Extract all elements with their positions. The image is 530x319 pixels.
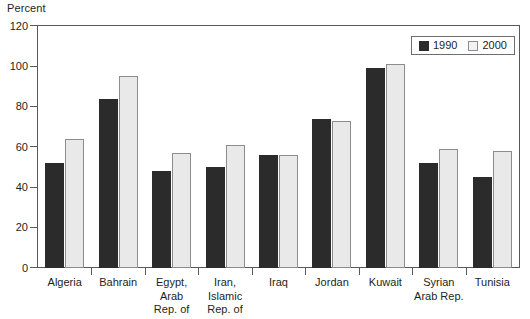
category-separator	[305, 268, 306, 275]
bar-1990	[152, 171, 171, 268]
y-axis-tick	[30, 146, 38, 147]
y-axis-tick-label: 40	[0, 182, 28, 193]
bar-2000	[439, 149, 458, 268]
bar-group	[198, 26, 251, 268]
bar-chart: Percent 020406080100120 AlgeriaBahrainEg…	[0, 0, 530, 319]
legend-label-2000: 2000	[482, 40, 506, 51]
category-separator	[412, 268, 413, 275]
bar-group	[145, 26, 198, 268]
bar-1990	[45, 163, 64, 268]
bar-2000	[172, 153, 191, 268]
bar-group	[359, 26, 412, 268]
plot-area	[38, 26, 519, 268]
category-separator	[145, 268, 146, 275]
legend-entry-1990: 1990	[419, 40, 457, 51]
y-axis-tick	[30, 267, 38, 268]
y-axis-tick-label: 20	[0, 222, 28, 233]
y-axis-tick-label: 120	[0, 21, 28, 32]
category-separator	[359, 268, 360, 275]
y-axis-tick	[30, 227, 38, 228]
bar-1990	[206, 167, 225, 268]
y-axis-tick	[30, 25, 38, 26]
bar-2000	[65, 139, 84, 268]
bar-group	[91, 26, 144, 268]
bar-1990	[99, 99, 118, 268]
bar-2000	[493, 151, 512, 268]
y-axis-tick-label: 80	[0, 101, 28, 112]
y-axis-tick-label: 60	[0, 142, 28, 153]
legend-label-1990: 1990	[433, 40, 457, 51]
bar-2000	[332, 121, 351, 268]
legend-swatch-2000	[468, 41, 478, 51]
category-separator	[466, 268, 467, 275]
bar-1990	[259, 155, 278, 268]
bar-group	[305, 26, 358, 268]
bar-group	[466, 26, 519, 268]
x-axis-label: Tunisia	[460, 276, 525, 290]
y-axis-tick	[30, 187, 38, 188]
bar-group	[38, 26, 91, 268]
y-axis-title: Percent	[7, 2, 46, 15]
bar-1990	[419, 163, 438, 268]
bar-1990	[312, 119, 331, 268]
y-axis-tick	[30, 66, 38, 67]
category-separator	[252, 268, 253, 275]
y-axis-tick-label: 0	[0, 263, 28, 274]
y-axis-tick-label: 100	[0, 61, 28, 72]
bar-2000	[119, 76, 138, 268]
bar-2000	[279, 155, 298, 268]
bar-2000	[226, 145, 245, 268]
legend-entry-2000: 2000	[468, 40, 506, 51]
bar-1990	[473, 177, 492, 268]
bar-group	[252, 26, 305, 268]
bar-2000	[386, 64, 405, 268]
bar-group	[412, 26, 465, 268]
legend: 1990 2000	[411, 36, 515, 55]
y-axis-tick	[30, 106, 38, 107]
legend-swatch-1990	[419, 41, 429, 51]
category-separator	[198, 268, 199, 275]
bar-1990	[366, 68, 385, 268]
category-separator	[91, 268, 92, 275]
